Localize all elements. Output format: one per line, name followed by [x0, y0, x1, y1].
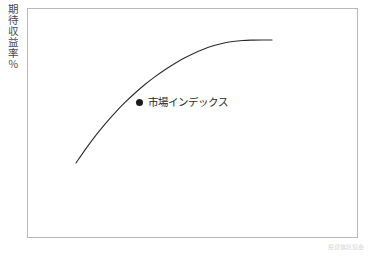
footer-caption: 投資信託協会: [328, 243, 364, 251]
legend: 市場インデックス: [136, 95, 228, 109]
plot-frame: [27, 8, 358, 238]
chart-figure: 期待収益率％ 市場インデックス 投資信託協会: [0, 0, 372, 256]
filled-circle-marker-icon: [136, 99, 143, 106]
y-axis-label: 期待収益率％: [1, 4, 17, 94]
legend-item-label: 市場インデックス: [148, 96, 228, 108]
